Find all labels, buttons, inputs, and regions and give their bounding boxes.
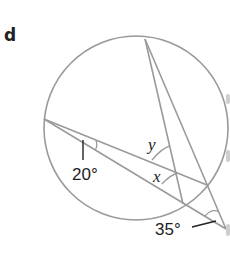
circle <box>44 36 228 220</box>
angle-label-y: y <box>146 135 156 154</box>
leader-35 <box>192 221 216 227</box>
line-top-to-bottom-point <box>145 39 183 204</box>
line-top-to-external-point <box>145 39 226 229</box>
angle-label-35: 35° <box>155 220 181 239</box>
angle-label-x: x <box>152 167 161 186</box>
arc-20 <box>95 140 97 150</box>
angle-label-20: 20° <box>72 165 98 184</box>
arc-35 <box>205 211 219 216</box>
lines <box>44 39 226 229</box>
circle-theorem-diagram: 20° y x 35° <box>0 0 230 262</box>
